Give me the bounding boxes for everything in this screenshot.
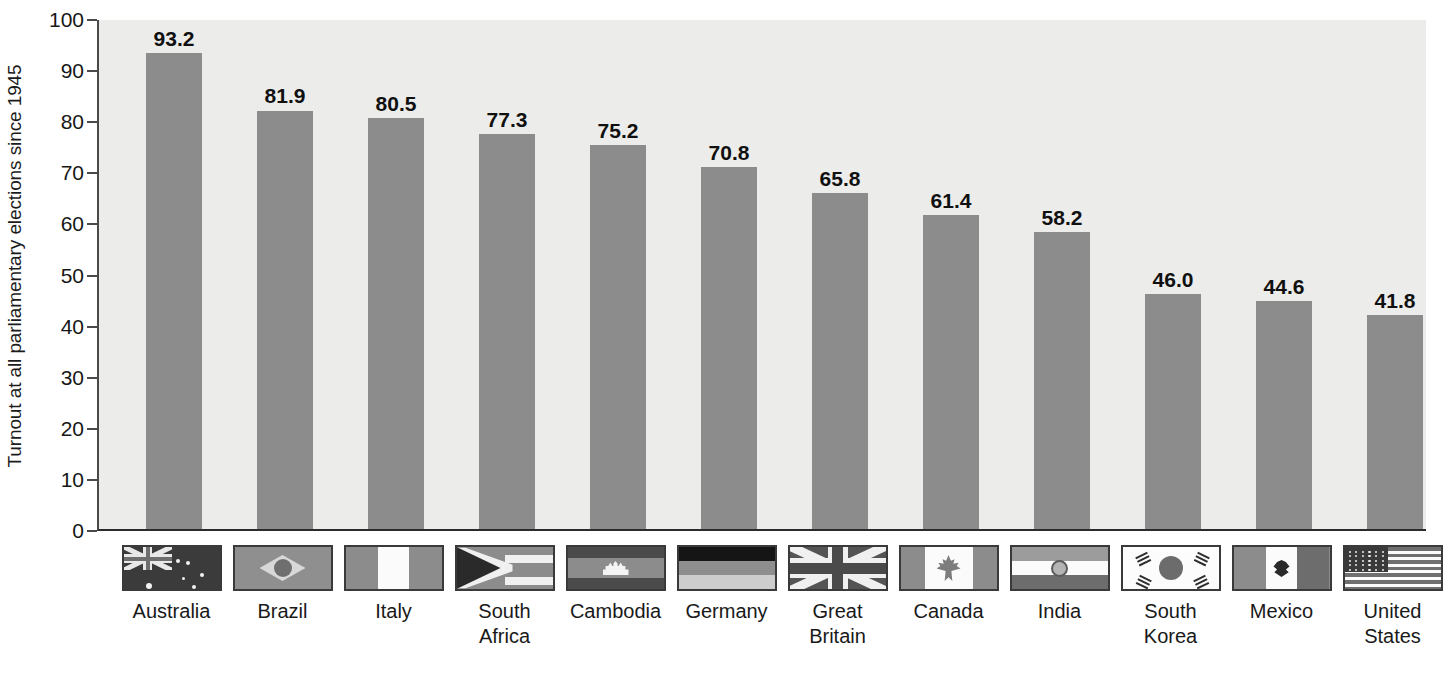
brazil-flag (233, 545, 333, 591)
y-tick-label: 70 (61, 161, 84, 185)
bar (923, 215, 979, 529)
bar (1034, 232, 1090, 529)
x-category-label: Australia (116, 599, 227, 624)
y-tick-label: 30 (61, 366, 84, 390)
y-axis-title: Turnout at all parliamentary elections s… (0, 0, 30, 531)
x-category-label-line: States (1337, 624, 1448, 649)
bar-value-label: 75.2 (573, 119, 663, 143)
x-category-label: SouthKorea (1115, 599, 1226, 649)
y-tick-label: 40 (61, 315, 84, 339)
x-category-label: SouthAfrica (449, 599, 560, 649)
y-tick-mark (87, 70, 97, 72)
y-tick-label: 20 (61, 417, 84, 441)
south-korea-flag (1121, 545, 1221, 591)
bars-container: 93.281.980.577.375.270.865.861.458.246.0… (99, 20, 1426, 529)
y-axis-title-text: Turnout at all parliamentary elections s… (4, 64, 26, 467)
x-category-label-line: Germany (671, 599, 782, 624)
x-category-label-line: Canada (893, 599, 1004, 624)
bar (368, 118, 424, 529)
y-tick-label: 90 (61, 59, 84, 83)
mexico-flag (1232, 545, 1332, 591)
united-states-flag (1343, 545, 1443, 591)
y-tick-mark (87, 275, 97, 277)
x-category-label: Brazil (227, 599, 338, 624)
x-category-australia: Australia (116, 533, 227, 624)
bar-value-label: 46.0 (1128, 268, 1218, 292)
y-tick-mark (87, 479, 97, 481)
x-category-label-line: Brazil (227, 599, 338, 624)
y-tick-mark (87, 223, 97, 225)
x-category-label-line: Britain (782, 624, 893, 649)
y-tick-mark (87, 172, 97, 174)
bar-value-label: 58.2 (1017, 206, 1107, 230)
bar (479, 134, 535, 529)
x-category-label-line: Cambodia (560, 599, 671, 624)
y-tick-mark (87, 326, 97, 328)
bar (590, 145, 646, 529)
bar (1256, 301, 1312, 529)
y-tick-mark (87, 530, 97, 532)
x-category-label: Germany (671, 599, 782, 624)
x-category-label-line: Australia (116, 599, 227, 624)
y-tick-label: 100 (49, 8, 84, 32)
x-category-label-line: Africa (449, 624, 560, 649)
x-axis-categories: AustraliaBrazilItalySouthAfricaCambodiaG… (97, 533, 1449, 679)
x-category-label-line: Mexico (1226, 599, 1337, 624)
x-category-label-line: Great (782, 599, 893, 624)
y-tick-label: 50 (61, 264, 84, 288)
bar-value-label: 70.8 (684, 141, 774, 165)
bar-value-label: 77.3 (462, 108, 552, 132)
bar (257, 111, 313, 530)
y-tick-label: 0 (72, 519, 84, 543)
x-category-label: UnitedStates (1337, 599, 1448, 649)
y-tick-label: 80 (61, 110, 84, 134)
x-category-label-line: South (1115, 599, 1226, 624)
x-category-label-line: Korea (1115, 624, 1226, 649)
x-category-label-line: Italy (338, 599, 449, 624)
chart-figure: Turnout at all parliamentary elections s… (0, 0, 1449, 679)
plot-area: 93.281.980.577.375.270.865.861.458.246.0… (97, 20, 1426, 531)
x-category-united-states: UnitedStates (1337, 533, 1448, 649)
bar (1145, 294, 1201, 529)
india-flag (1010, 545, 1110, 591)
bar (1367, 315, 1423, 529)
italy-flag (344, 545, 444, 591)
x-category-italy: Italy (338, 533, 449, 624)
y-tick-mark (87, 377, 97, 379)
bar-value-label: 81.9 (240, 84, 330, 108)
bar-value-label: 93.2 (129, 27, 219, 51)
y-tick-label: 10 (61, 468, 84, 492)
x-category-label: Italy (338, 599, 449, 624)
x-category-canada: Canada (893, 533, 1004, 624)
bar (146, 53, 202, 529)
bar (701, 167, 757, 529)
bar-value-label: 44.6 (1239, 275, 1329, 299)
x-category-mexico: Mexico (1226, 533, 1337, 624)
bar-value-label: 80.5 (351, 92, 441, 116)
x-category-label: GreatBritain (782, 599, 893, 649)
bar-value-label: 41.8 (1350, 289, 1440, 313)
bar-value-label: 61.4 (906, 189, 996, 213)
x-category-south-africa: SouthAfrica (449, 533, 560, 649)
x-category-brazil: Brazil (227, 533, 338, 624)
x-category-south-korea: SouthKorea (1115, 533, 1226, 649)
bar-value-label: 65.8 (795, 167, 885, 191)
x-category-label: India (1004, 599, 1115, 624)
x-category-label: Canada (893, 599, 1004, 624)
cambodia-flag (566, 545, 666, 591)
x-category-cambodia: Cambodia (560, 533, 671, 624)
y-tick-mark (87, 19, 97, 21)
y-tick-label: 60 (61, 212, 84, 236)
x-category-label: Cambodia (560, 599, 671, 624)
south-africa-flag (455, 545, 555, 591)
australia-flag (122, 545, 222, 591)
bar (812, 193, 868, 529)
x-category-india: India (1004, 533, 1115, 624)
germany-flag (677, 545, 777, 591)
x-category-germany: Germany (671, 533, 782, 624)
y-axis-ticks: 0102030405060708090100 (34, 0, 97, 551)
great-britain-flag (788, 545, 888, 591)
x-category-label-line: South (449, 599, 560, 624)
y-tick-mark (87, 121, 97, 123)
y-tick-mark (87, 428, 97, 430)
